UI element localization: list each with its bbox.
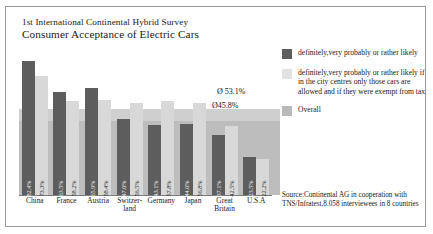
- avg-light-annotation: Ø 53.1%: [217, 87, 245, 96]
- bar-group: 44.0%56.8%: [177, 49, 209, 195]
- bar: 73.3%: [35, 76, 48, 195]
- bar-group: 37.1%42.5%: [209, 49, 241, 195]
- x-axis-label: China: [19, 197, 51, 214]
- bar-group: 23.5%22.2%: [240, 49, 272, 195]
- legend-swatch-light-icon: [282, 69, 292, 79]
- avg-dark-annotation: Ø45.8%: [212, 101, 238, 110]
- bar-value-label: 23.5%: [246, 180, 253, 196]
- legend-item-overall: Overall: [282, 105, 430, 116]
- legend-swatch-medium-icon: [282, 106, 292, 116]
- x-axis-label: U.S.A: [240, 197, 272, 214]
- legend: definitely,very probably or rather likel…: [282, 48, 430, 125]
- legend-label-overall: Overall: [298, 105, 321, 116]
- bar-value-label: 58.4%: [101, 180, 108, 196]
- chart-frame: 1st International Continental Hybrid Sur…: [5, 6, 426, 227]
- bar-group: 65.9%58.4%: [82, 49, 114, 195]
- bar-value-label: 56.8%: [196, 180, 203, 196]
- bar-value-label: 82.4%: [25, 180, 32, 196]
- legend-label-dark: definitely,very probably or rather likel…: [298, 48, 418, 59]
- bar-group: 63.5%58.2%: [51, 49, 83, 195]
- bar-group: 47.0%56.5%: [114, 49, 146, 195]
- bar-value-label: 22.2%: [259, 180, 266, 196]
- bar: 43.1%: [148, 125, 161, 195]
- x-axis-label: Germany: [146, 197, 178, 214]
- bar: 23.5%: [243, 157, 256, 195]
- bar-value-label: 73.3%: [38, 180, 45, 196]
- bar-group: 43.1%57.8%: [146, 49, 178, 195]
- bar-value-label: 42.5%: [228, 180, 235, 196]
- bar: 82.4%: [22, 61, 35, 195]
- bar-value-label: 65.9%: [88, 180, 95, 196]
- bar: 42.5%: [225, 126, 238, 195]
- plot-area: 82.4%73.3%63.5%58.2%65.9%58.4%47.0%56.5%…: [19, 49, 272, 195]
- title-line-1: 1st International Continental Hybrid Sur…: [22, 17, 272, 28]
- bar-groups: 82.4%73.3%63.5%58.2%65.9%58.4%47.0%56.5%…: [19, 49, 272, 195]
- x-axis-label: Switzer-land: [114, 197, 146, 214]
- bar: 37.1%: [212, 135, 225, 195]
- x-axis-label: Japan: [177, 197, 209, 214]
- x-axis-label: France: [51, 197, 83, 214]
- bar-value-label: 43.1%: [151, 180, 158, 196]
- title-line-2: Consumer Acceptance of Electric Cars: [22, 28, 272, 41]
- legend-item-definitely: definitely,very probably or rather likel…: [282, 48, 430, 59]
- bar-value-label: 37.1%: [215, 180, 222, 196]
- bar: 65.9%: [85, 88, 98, 195]
- legend-item-city-centres: definitely,very probably or rather likel…: [282, 68, 430, 96]
- bar: 57.8%: [161, 101, 174, 195]
- x-axis-label: Austria: [82, 197, 114, 214]
- bar: 44.0%: [180, 124, 193, 195]
- bar-value-label: 56.5%: [133, 180, 140, 196]
- bar: 63.5%: [53, 92, 66, 195]
- x-axis-labels: ChinaFranceAustriaSwitzer-landGermanyJap…: [19, 197, 272, 214]
- bar-value-label: 57.8%: [164, 180, 171, 196]
- legend-label-light: definitely,very probably or rather likel…: [298, 68, 430, 96]
- source-note: Source:Continental AG in cooperation wit…: [282, 191, 432, 209]
- bar-value-label: 44.0%: [183, 180, 190, 196]
- bar: 56.8%: [193, 103, 206, 195]
- bar: 56.5%: [130, 103, 143, 195]
- x-axis-label: Great Britain: [209, 197, 241, 214]
- bar-group: 82.4%73.3%: [19, 49, 51, 195]
- bar-value-label: 58.2%: [69, 180, 76, 196]
- bar: 58.4%: [98, 100, 111, 195]
- bar: 58.2%: [66, 101, 79, 195]
- bar: 22.2%: [256, 159, 269, 195]
- bar-value-label: 47.0%: [120, 180, 127, 196]
- bar-value-label: 63.5%: [56, 180, 63, 196]
- page-title: 1st International Continental Hybrid Sur…: [22, 17, 272, 41]
- bar: 47.0%: [117, 119, 130, 195]
- legend-swatch-dark-icon: [282, 49, 292, 59]
